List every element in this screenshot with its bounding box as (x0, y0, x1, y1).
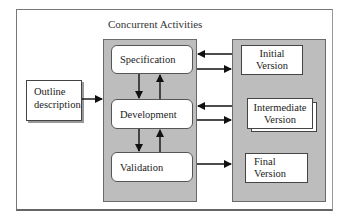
arrows-layer (0, 0, 348, 222)
